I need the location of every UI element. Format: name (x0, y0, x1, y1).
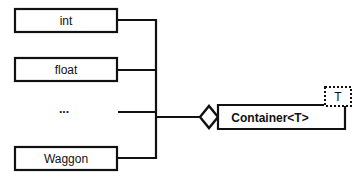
class-box-float: float (15, 58, 117, 81)
template-parameter-label: T (334, 90, 342, 104)
connector-lines (117, 20, 200, 158)
connector-bus (117, 20, 156, 158)
uml-diagram: int float ... Waggon Container<T> T (0, 0, 364, 185)
class-box-waggon: Waggon (15, 147, 117, 170)
class-box-container: Container<T> (218, 105, 345, 129)
class-label-int: int (60, 14, 73, 28)
template-parameter-box: T (325, 87, 351, 106)
ellipsis-label: ... (59, 102, 69, 116)
class-label-container: Container<T> (231, 111, 308, 125)
aggregation-diamond-icon (200, 106, 218, 128)
class-box-int: int (15, 9, 117, 32)
class-label-waggon: Waggon (44, 152, 88, 166)
class-label-float: float (55, 63, 78, 77)
